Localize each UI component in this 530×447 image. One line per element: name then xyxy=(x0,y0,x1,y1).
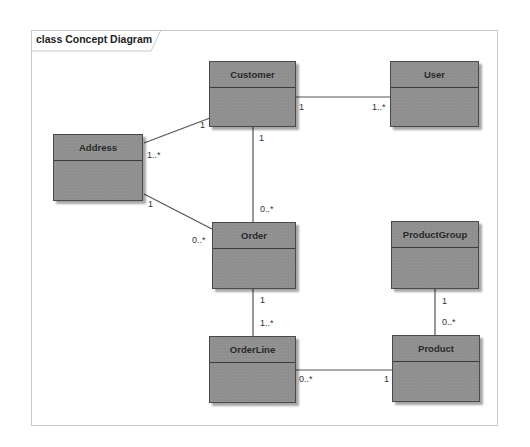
mult-order-orderline-to: 1..* xyxy=(260,318,274,328)
class-name: ProductGroup xyxy=(392,222,478,248)
class-name: Address xyxy=(54,135,142,161)
class-name: OrderLine xyxy=(210,337,295,363)
class-name: Order xyxy=(213,223,295,249)
mult-orderline-product-to: 1 xyxy=(384,374,389,384)
assoc-address-order xyxy=(144,194,212,229)
class-product[interactable]: Product xyxy=(392,335,480,402)
mult-customer-order-to: 0..* xyxy=(260,204,274,214)
class-name: Customer xyxy=(210,62,295,88)
mult-customer-order-from: 1 xyxy=(259,133,264,143)
mult-order-orderline-from: 1 xyxy=(260,295,265,305)
class-productgroup[interactable]: ProductGroup xyxy=(391,221,479,289)
class-name: Product xyxy=(393,336,479,362)
mult-customer-address-from: 1 xyxy=(200,120,205,130)
mult-productgroup-product-to: 0..* xyxy=(442,317,456,327)
class-orderline[interactable]: OrderLine xyxy=(209,336,296,403)
mult-productgroup-product-from: 1 xyxy=(442,296,447,306)
mult-address-order-to: 0..* xyxy=(192,235,206,245)
mult-orderline-product-from: 0..* xyxy=(299,374,313,384)
mult-address-order-from: 1 xyxy=(148,199,153,209)
mult-customer-user-from: 1 xyxy=(299,102,304,112)
class-order[interactable]: Order xyxy=(212,222,296,289)
mult-customer-address-to: 1..* xyxy=(147,150,161,160)
class-address[interactable]: Address xyxy=(53,134,143,201)
mult-customer-user-to: 1..* xyxy=(372,102,386,112)
class-user[interactable]: User xyxy=(390,61,479,127)
class-customer[interactable]: Customer xyxy=(209,61,296,127)
class-name: User xyxy=(391,62,478,88)
diagram-canvas: class Concept Diagram Customer User Addr… xyxy=(0,0,530,447)
